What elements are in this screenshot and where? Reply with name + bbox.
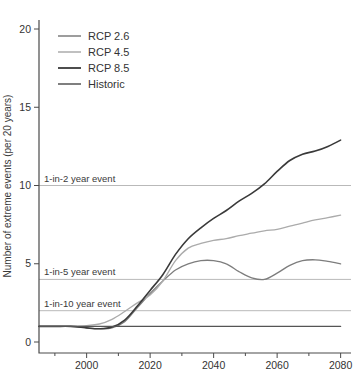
reference-label-1-in-2-year-event: 1-in-2 year event	[44, 173, 116, 184]
reference-label-1-in-5-year-event: 1-in-5 year event	[44, 266, 116, 277]
legend-label-rcp-2-6: RCP 2.6	[88, 30, 129, 42]
legend-label-rcp-4-5: RCP 4.5	[88, 46, 129, 58]
y-tick-label-15: 15	[19, 101, 31, 113]
extreme-events-chart: 1-in-2 year event1-in-5 year event1-in-1…	[0, 0, 359, 381]
chart-canvas: 1-in-2 year event1-in-5 year event1-in-1…	[0, 0, 359, 381]
x-tick-label-2020: 2020	[138, 359, 162, 371]
x-tick-label-2000: 2000	[75, 359, 99, 371]
y-tick-label-10: 10	[19, 179, 31, 191]
reference-label-1-in-10-year-event: 1-in-10 year event	[44, 298, 121, 309]
y-axis-title: Number of extreme events (per 20 years)	[2, 95, 13, 278]
chart-background	[0, 0, 359, 381]
legend-label-rcp-8-5: RCP 8.5	[88, 62, 129, 74]
y-tick-label-0: 0	[25, 336, 31, 348]
legend-label-historic: Historic	[88, 78, 125, 90]
y-tick-label-5: 5	[25, 257, 31, 269]
x-tick-label-2060: 2060	[265, 359, 289, 371]
x-tick-label-2040: 2040	[202, 359, 226, 371]
x-tick-label-2080: 2080	[329, 359, 353, 371]
y-tick-label-20: 20	[19, 23, 31, 35]
